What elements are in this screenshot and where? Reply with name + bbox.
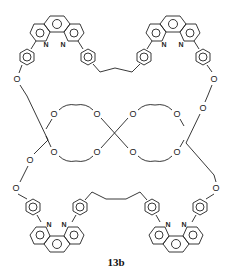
- bottom-left-phenanthroline: N N: [30, 221, 84, 253]
- nitrogen-atom: N: [61, 221, 66, 228]
- oxygen-atom: O: [212, 183, 219, 193]
- nitrogen-atom: N: [46, 221, 51, 228]
- top-left-phenanthroline: N N: [30, 16, 84, 48]
- oxygen-atom: O: [93, 109, 100, 119]
- oxygen-atom: O: [93, 147, 100, 157]
- oxygen-atom: O: [210, 74, 217, 84]
- nitrogen-atom: N: [178, 41, 183, 48]
- nitrogen-atom: N: [181, 221, 186, 228]
- oxygen-atom: O: [13, 74, 20, 84]
- compound-label: 13b: [0, 256, 232, 268]
- oxygen-atom: O: [50, 147, 57, 157]
- phenyl-ring: [145, 199, 159, 215]
- top-right-phenanthroline: N N: [146, 16, 200, 48]
- oxygen-atom: O: [173, 147, 180, 157]
- oxygen-atom: O: [26, 155, 33, 165]
- chemical-structure: N N O N N O O O O O O O O O O: [0, 0, 232, 276]
- nitrogen-atom: N: [43, 41, 48, 48]
- oxygen-atom: O: [50, 109, 57, 119]
- bottom-right-phenanthroline: N N: [149, 221, 203, 253]
- phenyl-ring: [81, 49, 95, 65]
- phenyl-ring: [26, 199, 40, 215]
- phenyl-ring: [196, 49, 210, 65]
- crown-ether-core: O O O O O O O O: [46, 105, 184, 162]
- oxygen-atom: O: [173, 109, 180, 119]
- nitrogen-atom: N: [165, 221, 170, 228]
- oxygen-atom: O: [199, 103, 206, 113]
- nitrogen-atom: N: [161, 41, 166, 48]
- oxygen-atom: O: [129, 147, 136, 157]
- phenyl-ring: [137, 49, 151, 65]
- phenyl-ring: [20, 49, 34, 65]
- oxygen-atom: O: [12, 183, 19, 193]
- nitrogen-atom: N: [60, 41, 65, 48]
- phenyl-ring: [193, 199, 207, 215]
- oxygen-atom: O: [129, 109, 136, 119]
- phenyl-ring: [73, 199, 87, 215]
